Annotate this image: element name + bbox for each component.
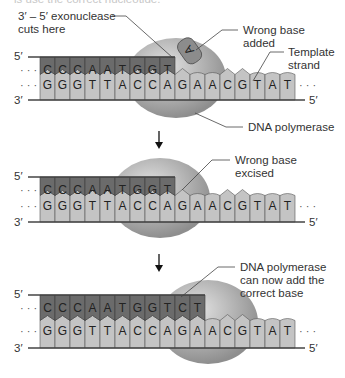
new-strand-base-letter: A — [103, 63, 111, 77]
new-strand-base-letter: A — [103, 301, 111, 315]
new-strand-base-letter: G — [148, 183, 157, 197]
template-base-letter: A — [118, 78, 126, 92]
template-base-letter: G — [58, 324, 67, 338]
wrong-base-label-line2: added — [243, 37, 275, 49]
ellipsis: · · · — [299, 79, 316, 91]
five-prime-label: 5′ — [309, 342, 318, 354]
five-prime-label: 5′ — [14, 288, 23, 300]
excised-label-line2: excised — [235, 167, 274, 179]
new-strand-base-letter: C — [43, 63, 52, 77]
template-base-letter: G — [73, 324, 82, 338]
three-prime-label: 3′ — [14, 216, 23, 228]
template-base-letter: G — [178, 324, 187, 338]
new-strand-base-letter: C — [73, 183, 82, 197]
new-strand-base-letter: T — [164, 63, 172, 77]
new-strand-base-letter: C — [43, 183, 52, 197]
top-caption-cut: is use the correct nucleotide. — [14, 0, 160, 5]
three-prime-label: 3′ — [14, 94, 23, 106]
exonuclease-label-line1: 3′ – 5′ exonuclease — [18, 10, 116, 22]
ellipsis: · · · — [299, 200, 316, 212]
new-strand-base-letter: C — [178, 301, 187, 315]
template-base-letter: A — [193, 324, 201, 338]
template-base-letter: T — [254, 199, 262, 213]
template-base-letter: G — [73, 78, 82, 92]
new-strand-base-letter: G — [133, 183, 142, 197]
dna-proofreading-diagram: is use the correct nucleotide. GGGTTACCA… — [0, 0, 345, 378]
five-prime-label: 5′ — [309, 216, 318, 228]
ellipsis: · · · — [20, 184, 37, 196]
new-strand-base-letter: C — [58, 183, 67, 197]
new-strand-base-letter: G — [133, 301, 142, 315]
template-base-letter: A — [208, 199, 216, 213]
template-base-letter: G — [178, 199, 187, 213]
new-strand-base-letter: A — [103, 183, 111, 197]
new-strand-base-letter: C — [58, 63, 67, 77]
panel-wrong-base-excised: GGGTTACCAGAACGTATCCCAATGGT5′3′5′· · ·· ·… — [14, 154, 318, 238]
template-base-letter: G — [238, 324, 247, 338]
new-strand-base-letter: T — [119, 183, 127, 197]
template-base-letter: C — [133, 78, 142, 92]
template-base-letter: T — [284, 78, 292, 92]
template-base-letter: C — [223, 78, 232, 92]
template-label-line2: strand — [288, 59, 320, 71]
template-base-letter: G — [73, 199, 82, 213]
panel-correct-base-added: GGGTTACCAGAACGTATCCCAATGGTCT5′3′5′· · ··… — [14, 261, 326, 364]
template-base-letter: C — [148, 199, 157, 213]
template-base-letter: T — [89, 78, 97, 92]
template-base-letter: T — [104, 78, 112, 92]
new-strand-base-letter: A — [88, 301, 96, 315]
ellipsis: · · · — [20, 64, 37, 76]
new-strand-base-letter: A — [88, 183, 96, 197]
panel-wrong-base-added: GGGTTACCAGAACGTATCCCAATGGT5′3′5′· · ·· ·… — [14, 10, 335, 133]
ellipsis: · · · — [20, 79, 37, 91]
new-strand-base-letter: T — [194, 301, 202, 315]
new-strand-base-letter: C — [58, 301, 67, 315]
template-base-letter: T — [284, 324, 292, 338]
template-label-line1: Template — [288, 46, 335, 58]
ellipsis: · · · — [20, 302, 37, 314]
ellipsis: · · · — [20, 200, 37, 212]
template-base-letter: A — [118, 199, 126, 213]
template-base-letter: A — [118, 324, 126, 338]
template-base-letter: A — [268, 78, 276, 92]
dna-polymerase-label: DNA polymerase — [248, 121, 334, 133]
ellipsis: · · · — [299, 325, 316, 337]
template-base-letter: A — [163, 78, 171, 92]
new-strand-base-letter: A — [88, 63, 96, 77]
template-base-letter: T — [284, 199, 292, 213]
ellipsis: · · · — [20, 325, 37, 337]
template-base-letter: T — [104, 199, 112, 213]
template-base-letter: C — [148, 324, 157, 338]
new-strand-base-letter: G — [148, 301, 157, 315]
template-base-letter: T — [104, 324, 112, 338]
template-base-letter: A — [208, 78, 216, 92]
polymerase-label-line2: can now add the — [240, 274, 324, 286]
template-base-letter: A — [268, 199, 276, 213]
new-strand-base-letter: C — [73, 301, 82, 315]
template-base-letter: G — [58, 199, 67, 213]
new-strand-base-letter: C — [73, 63, 82, 77]
polymerase-leader-line — [195, 113, 243, 127]
five-prime-label: 5′ — [14, 50, 23, 62]
template-base-letter: G — [43, 199, 52, 213]
template-base-letter: T — [254, 78, 262, 92]
template-base-letter: C — [133, 324, 142, 338]
new-strand-base-letter: T — [119, 301, 127, 315]
down-arrow-icon — [155, 254, 163, 272]
template-base-letter: C — [148, 78, 157, 92]
template-base-letter: T — [254, 324, 262, 338]
new-strand-base-letter: G — [148, 63, 157, 77]
exonuclease-label-line2: cuts here — [18, 23, 65, 35]
template-base-letter: G — [43, 324, 52, 338]
template-base-letter: A — [193, 199, 201, 213]
template-base-letter: T — [89, 199, 97, 213]
new-strand-base-letter: T — [164, 301, 172, 315]
polymerase-label-line3: correct base — [240, 287, 303, 299]
template-base-letter: G — [58, 78, 67, 92]
five-prime-label: 5′ — [309, 94, 318, 106]
three-prime-label: 3′ — [14, 342, 23, 354]
template-base-letter: G — [43, 78, 52, 92]
new-strand-base-letter: G — [133, 63, 142, 77]
template-base-letter: A — [163, 324, 171, 338]
down-arrow-icon — [155, 131, 163, 149]
